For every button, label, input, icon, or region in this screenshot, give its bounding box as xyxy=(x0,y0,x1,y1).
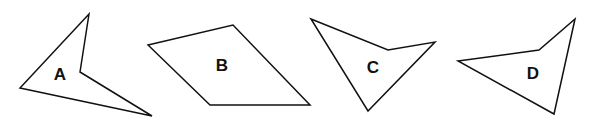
quadrilaterals-diagram: A B C D xyxy=(0,0,595,126)
quadrilateral-d xyxy=(458,19,575,114)
shape-b: B xyxy=(148,25,310,105)
shape-label-b: B xyxy=(216,56,228,75)
shape-a: A xyxy=(20,14,152,116)
shape-c: C xyxy=(311,19,435,111)
shape-label-a: A xyxy=(54,65,66,84)
shape-label-d: D xyxy=(527,64,539,83)
quadrilateral-b xyxy=(148,25,310,105)
shape-label-c: C xyxy=(367,58,379,77)
shape-d: D xyxy=(458,19,575,114)
quadrilateral-a xyxy=(20,14,152,116)
